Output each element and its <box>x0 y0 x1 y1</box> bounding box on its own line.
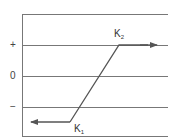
payoff-diagram <box>0 0 174 140</box>
k2-sub: 2 <box>121 34 124 40</box>
y-label-zero: 0 <box>10 71 16 81</box>
y-label-plus: + <box>10 40 16 50</box>
k2-main: K <box>114 28 121 39</box>
k1-sub: 1 <box>81 129 84 135</box>
y-label-minus: − <box>10 102 16 112</box>
k1-label: K1 <box>74 124 84 135</box>
payoff-line <box>70 45 148 122</box>
k1-main: K <box>74 123 81 134</box>
k2-label: K2 <box>114 29 124 40</box>
